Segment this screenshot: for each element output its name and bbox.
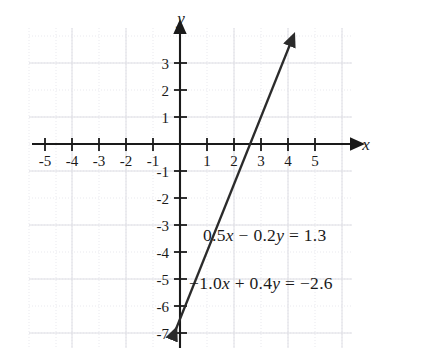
x-tick-label: 4: [284, 153, 292, 169]
x-axis-label: x: [361, 135, 370, 154]
equation-1-rhs: = 1.3: [284, 225, 326, 245]
y-tick-label: -4: [157, 245, 170, 261]
equation-2-rhs: = −2.6: [280, 273, 332, 293]
equation-2-var-y: y: [270, 273, 280, 293]
y-tick-label: 1: [162, 110, 170, 126]
equation-2-coef-y: 0.4: [250, 273, 273, 293]
x-tick-label: -3: [93, 153, 106, 169]
y-tick-label: -1: [157, 164, 170, 180]
equation-1-operator: −: [234, 225, 254, 245]
figure-background: [0, 0, 432, 361]
y-tick-label: -3: [157, 218, 170, 234]
equation-2: −1.0x + 0.4y = −2.6: [189, 273, 333, 293]
y-tick-label: 3: [162, 56, 170, 72]
equation-1: 0.5x − 0.2y = 1.3: [203, 225, 327, 245]
y-tick-label: 2: [162, 83, 170, 99]
y-tick-label: -5: [157, 272, 170, 288]
equation-1-var-x: x: [225, 225, 234, 245]
x-tick-label: -4: [66, 153, 79, 169]
y-axis-label: y: [175, 9, 185, 28]
graph-figure: -5 -4 -3 -2 -1 1 2 3 4 5 3 2 1 -1 -2 -3 …: [0, 0, 432, 361]
x-tick-label: 3: [257, 153, 265, 169]
y-tick-label: -7: [157, 326, 170, 342]
y-tick-label: -2: [157, 191, 170, 207]
x-tick-label: 5: [311, 153, 319, 169]
equation-2-coef-x: −1.0: [189, 273, 222, 293]
x-tick-label: 1: [203, 153, 211, 169]
y-tick-label: -6: [157, 299, 170, 315]
coordinate-plane-svg: -5 -4 -3 -2 -1 1 2 3 4 5 3 2 1 -1 -2 -3 …: [0, 0, 432, 361]
x-tick-label: -5: [39, 153, 52, 169]
equation-2-var-x: x: [221, 273, 230, 293]
equation-2-operator: +: [230, 273, 250, 293]
x-tick-label: 2: [230, 153, 238, 169]
equation-1-var-y: y: [274, 225, 284, 245]
equation-1-coef-x: 0.5: [203, 225, 226, 245]
x-tick-label: -2: [120, 153, 133, 169]
equation-1-coef-y: 0.2: [253, 225, 276, 245]
